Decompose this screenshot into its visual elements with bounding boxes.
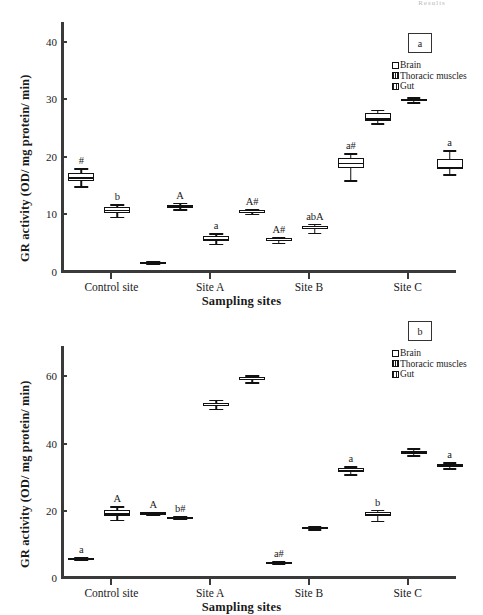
y-tick-mark xyxy=(62,443,67,445)
y-tick-label: 20 xyxy=(46,151,57,163)
median-line xyxy=(401,100,427,102)
whisker-cap-lower xyxy=(443,468,457,470)
x-tick-label: Site B xyxy=(295,587,323,599)
legend-label: Gut xyxy=(400,81,414,92)
panel-b-y-axis-title: GR activity (OD/ mg protein/ min) xyxy=(18,381,33,568)
median-line xyxy=(338,163,364,165)
y-tick-label: 0 xyxy=(52,266,58,278)
whisker-cap-upper xyxy=(75,168,89,170)
whisker-cap-lower xyxy=(245,214,259,216)
legend-item: Gut xyxy=(392,81,467,92)
significance-label: A# xyxy=(272,224,285,235)
legend-swatch-icon xyxy=(392,83,399,90)
whisker-cap-upper xyxy=(371,110,385,112)
y-tick-mark xyxy=(62,375,67,377)
median-line xyxy=(437,465,463,467)
legend-item: Gut xyxy=(392,369,467,380)
legend-label: Brain xyxy=(400,60,421,71)
y-tick-label: 40 xyxy=(46,36,57,48)
median-line xyxy=(266,562,292,564)
whisker-cap-lower xyxy=(245,382,259,384)
x-tick-mark xyxy=(407,273,409,279)
significance-label: a xyxy=(349,453,354,464)
panel-a-chart: Results GR activity (OD/ mg protein/ min… xyxy=(0,0,483,306)
median-line xyxy=(167,206,193,208)
x-tick-label: Site C xyxy=(393,587,421,599)
whisker-cap-upper xyxy=(209,400,223,402)
whisker-cap-upper xyxy=(344,466,358,468)
panel-b-legend: BrainThoracic musclesGut xyxy=(392,348,467,380)
y-tick-label: 20 xyxy=(46,505,57,517)
y-tick-label: 10 xyxy=(46,208,57,220)
whisker-cap-lower xyxy=(443,174,457,176)
panel-b-x-axis-title: Sampling sites xyxy=(0,600,483,615)
legend-item: Brain xyxy=(392,348,467,359)
whisker-cap-upper xyxy=(407,448,421,450)
significance-label: a xyxy=(447,449,452,460)
legend-item: Brain xyxy=(392,60,467,71)
median-line xyxy=(68,559,94,561)
whisker-lower xyxy=(350,168,352,180)
median-line xyxy=(203,239,229,241)
whisker-cap-upper xyxy=(344,153,358,155)
panel-a-tag: a xyxy=(408,33,432,53)
whisker-cap-lower xyxy=(272,243,286,245)
y-tick-label: 30 xyxy=(46,93,57,105)
x-tick-label: Control site xyxy=(84,587,138,599)
whisker-cap-upper xyxy=(443,150,457,152)
whisker-cap-lower xyxy=(209,244,223,246)
y-tick-mark xyxy=(62,510,67,512)
median-line xyxy=(365,118,391,120)
significance-label: a xyxy=(214,220,219,231)
whisker-cap-upper xyxy=(209,233,223,235)
significance-label: a xyxy=(79,544,84,555)
whisker-cap-lower xyxy=(111,217,125,219)
whisker-cap-lower xyxy=(371,521,385,523)
whisker-cap-upper xyxy=(308,224,322,226)
x-tick-mark xyxy=(110,273,112,279)
median-line xyxy=(338,470,364,472)
panel-a-legend: BrainThoracic musclesGut xyxy=(392,60,467,92)
whisker-cap-lower xyxy=(371,123,385,125)
x-tick-mark xyxy=(308,579,310,585)
y-tick-mark xyxy=(62,41,67,43)
legend-item: Thoracic muscles xyxy=(392,71,467,82)
significance-label: # xyxy=(79,155,84,166)
significance-label: A xyxy=(114,493,122,504)
legend-swatch-icon xyxy=(392,62,399,69)
legend-label: Gut xyxy=(400,369,414,380)
x-tick-mark xyxy=(407,579,409,585)
x-tick-mark xyxy=(110,579,112,585)
top-note: Results xyxy=(382,0,482,6)
significance-label: A xyxy=(150,499,158,510)
box-body xyxy=(365,113,391,121)
x-tick-label: Site C xyxy=(393,281,421,293)
median-line xyxy=(266,240,292,242)
x-tick-mark xyxy=(209,579,211,585)
whisker-cap-lower xyxy=(173,209,187,211)
significance-label: A# xyxy=(246,196,259,207)
median-line xyxy=(104,513,130,515)
whisker-cap-lower xyxy=(344,180,358,182)
whisker-cap-lower xyxy=(407,455,421,457)
significance-label: a xyxy=(447,137,452,148)
significance-label: b xyxy=(375,497,380,508)
panel-a-y-axis-title: GR activity (OD/ mg protein/ min) xyxy=(18,75,33,262)
whisker-cap-upper xyxy=(111,506,125,508)
median-line xyxy=(140,262,166,264)
whisker-cap-lower xyxy=(344,474,358,476)
x-tick-label: Site A xyxy=(196,281,224,293)
x-tick-mark xyxy=(308,273,310,279)
legend-swatch-icon xyxy=(392,360,399,367)
panel-b-tag: b xyxy=(408,321,432,341)
x-tick-mark xyxy=(209,273,211,279)
significance-label: a# xyxy=(274,548,284,559)
y-tick-label: 0 xyxy=(52,572,58,584)
legend-swatch-icon xyxy=(392,350,399,357)
x-tick-label: Site B xyxy=(295,281,323,293)
y-tick-mark xyxy=(62,271,67,273)
y-tick-label: 60 xyxy=(46,370,57,382)
median-line xyxy=(167,518,193,520)
significance-label: a# xyxy=(346,140,356,151)
legend-label: Brain xyxy=(400,348,421,359)
